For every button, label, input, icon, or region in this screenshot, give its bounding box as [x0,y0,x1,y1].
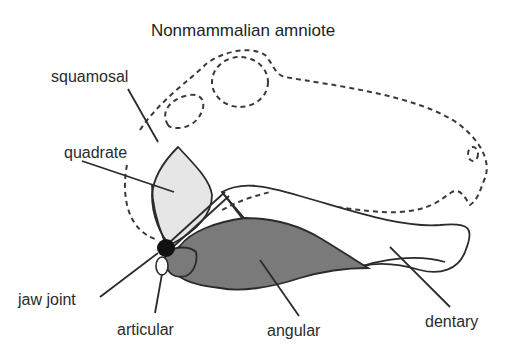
label-jaw-joint: jaw joint [17,291,76,308]
diagram-title: Nonmammalian amniote [151,21,335,40]
label-squamosal: squamosal [51,68,128,85]
articular-bone [156,257,168,275]
jaw-joint-marker [157,239,175,257]
label-articular: articular [117,321,175,338]
label-quadrate: quadrate [64,144,127,161]
jaw-diagram: Nonmammalian amniote squamosal quadra [0,0,515,359]
orbit [212,57,268,107]
label-angular: angular [267,322,321,339]
label-dentary: dentary [425,313,478,330]
temporal-fenestra [165,95,203,128]
nostril [468,147,478,161]
